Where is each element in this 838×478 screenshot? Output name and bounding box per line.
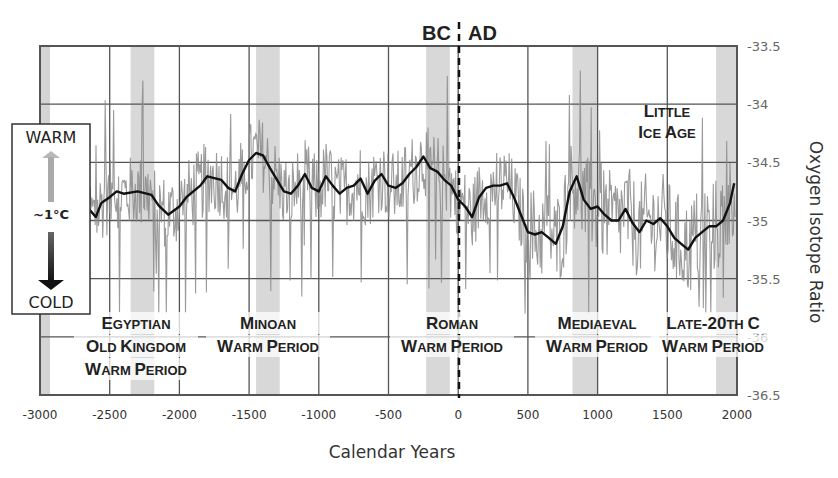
svg-text:WARM PERIOD: WARM PERIOD: [401, 337, 503, 356]
x-tick-label: -1500: [232, 408, 267, 422]
label-roman-warm-period: ROMANWARM PERIOD: [390, 312, 514, 357]
x-tick-label: -1000: [301, 408, 336, 422]
x-tick-label: 500: [516, 408, 539, 422]
x-tick-label: 1000: [582, 408, 613, 422]
legend-cold-label: COLD: [29, 293, 74, 312]
svg-text:WARM PERIOD: WARM PERIOD: [662, 337, 764, 356]
svg-text:OLD KINGDOM: OLD KINGDOM: [86, 337, 186, 356]
y-tick-label: -34.5: [747, 155, 781, 170]
x-tick-label: 0: [454, 408, 462, 422]
x-tick-label: -500: [375, 408, 402, 422]
svg-text:WARM PERIOD: WARM PERIOD: [85, 360, 187, 379]
svg-text:MEDIAEVAL: MEDIAEVAL: [558, 314, 637, 333]
svg-text:WARM PERIOD: WARM PERIOD: [546, 337, 648, 356]
label-egyptian-warm-period: EGYPTIANOLD KINGDOMWARM PERIOD: [74, 312, 198, 380]
annual-series: [74, 71, 736, 314]
svg-text:EGYPTIAN: EGYPTIAN: [101, 314, 170, 333]
x-axis-ticks: -3000-2500-2000-1500-1000-50005001000150…: [23, 408, 753, 422]
legend-warm-label: WARM: [26, 128, 77, 147]
y-tick-label: -34: [747, 97, 768, 112]
svg-text:LITTLE: LITTLE: [644, 102, 691, 121]
y-axis-title: Oxygen Isotope Ratio: [806, 141, 826, 324]
svg-text:ICE AGE: ICE AGE: [638, 123, 696, 142]
legend-delta-label: ~1°C: [33, 207, 69, 222]
ad-label: AD: [468, 22, 497, 44]
y-tick-label: -36.5: [747, 388, 781, 403]
svg-text:LATE-20TH C: LATE-20TH C: [666, 314, 759, 333]
bc-label: BC: [422, 22, 451, 44]
x-tick-label: 1500: [652, 408, 683, 422]
x-tick-label: 2000: [722, 408, 753, 422]
svg-text:ROMAN: ROMAN: [426, 314, 478, 333]
svg-text:MINOAN: MINOAN: [240, 314, 296, 333]
x-axis-title: Calendar Years: [329, 442, 456, 462]
isotope-chart: BC AD -3000-2500-2000-1500-1000-50005001…: [0, 0, 838, 478]
x-tick-label: -3000: [23, 408, 58, 422]
warm-cold-legend: WARM ~1°C COLD: [12, 124, 90, 314]
x-tick-label: -2500: [92, 408, 127, 422]
y-tick-label: -35: [747, 214, 768, 229]
y-tick-label: -33.5: [747, 39, 781, 54]
svg-text:WARM PERIOD: WARM PERIOD: [217, 337, 319, 356]
x-tick-label: -2000: [162, 408, 197, 422]
y-tick-label: -35.5: [747, 272, 781, 287]
